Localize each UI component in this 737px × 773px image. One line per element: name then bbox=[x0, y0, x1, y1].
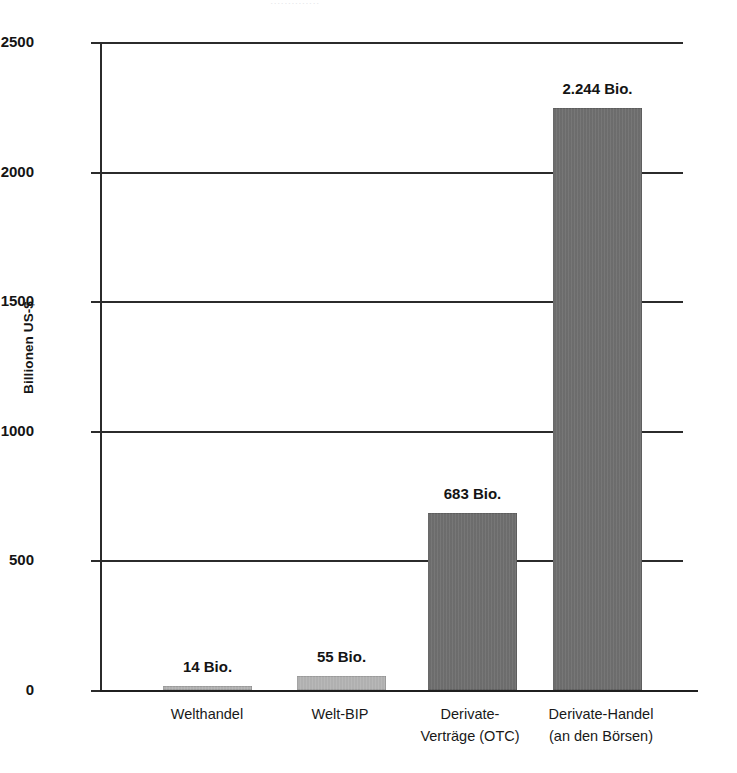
bar-2 bbox=[297, 676, 386, 690]
y-tick-2000 bbox=[91, 172, 100, 174]
value-label-1: 14 Bio. bbox=[138, 658, 278, 675]
value-label-4: 2.244 Bio. bbox=[528, 80, 668, 97]
y-tick-2500 bbox=[91, 42, 100, 44]
clipped-header-text: .............. bbox=[270, 0, 730, 4]
y-axis-line bbox=[100, 42, 102, 691]
y-tick-1500 bbox=[91, 301, 100, 303]
bar-texture bbox=[163, 686, 252, 690]
gridline-0 bbox=[100, 690, 698, 692]
bar-texture bbox=[553, 108, 642, 690]
y-tick-label-500: 500 bbox=[0, 551, 34, 568]
y-tick-label-1000: 1000 bbox=[0, 422, 34, 439]
value-label-2: 55 Bio. bbox=[272, 648, 412, 665]
category-label-4: Derivate-Handel(an den Börsen) bbox=[516, 703, 686, 748]
y-tick-label-2500: 2500 bbox=[0, 33, 34, 50]
bar-3 bbox=[428, 513, 517, 690]
category-label-line: (an den Börsen) bbox=[516, 725, 686, 747]
bar-chart: .............. Billionen US-$ 0500100015… bbox=[0, 0, 737, 773]
category-label-line: Derivate-Handel bbox=[516, 703, 686, 725]
bar-1 bbox=[163, 686, 252, 690]
y-tick-label-0: 0 bbox=[0, 681, 34, 698]
y-tick-500 bbox=[91, 560, 100, 562]
y-tick-label-1500: 1500 bbox=[0, 292, 34, 309]
y-tick-1000 bbox=[91, 431, 100, 433]
gridline-2500 bbox=[100, 42, 683, 44]
value-label-3: 683 Bio. bbox=[403, 485, 543, 502]
bar-texture bbox=[428, 513, 517, 690]
y-tick-0 bbox=[91, 690, 100, 692]
bar-texture bbox=[297, 676, 386, 690]
y-tick-label-2000: 2000 bbox=[0, 163, 34, 180]
plot-area: 05001000150020002500 14 Bio.55 Bio.683 B… bbox=[100, 42, 683, 690]
bar-4 bbox=[553, 108, 642, 690]
